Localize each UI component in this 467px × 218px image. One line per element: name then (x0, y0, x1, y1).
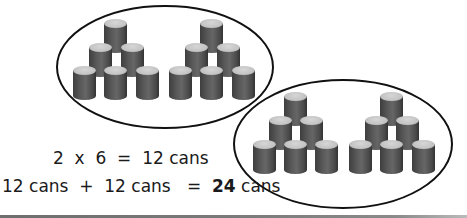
bottom-divider (0, 215, 467, 218)
can-icon (169, 66, 192, 100)
can-icon (253, 140, 276, 174)
equation-line-2-prefix: 12 cans + 12 cans = (2, 176, 212, 196)
can-icon (380, 140, 403, 174)
can-icon (73, 66, 96, 100)
can-icon (349, 140, 372, 174)
equation-line-1: 2 x 6 = 12 cans (53, 148, 209, 168)
can-icon (232, 66, 255, 100)
can-icon (200, 66, 223, 100)
can-icon (315, 140, 338, 174)
multiplication-diagram: 2 x 6 = 12 cans 12 cans + 12 cans = 24 c… (0, 0, 467, 218)
can-icon (284, 140, 307, 174)
can-icon (136, 66, 159, 100)
equation-line-2-suffix: cans (236, 176, 281, 196)
can-icon (412, 140, 435, 174)
equation-addition: 12 cans + 12 cans = 24 cans (2, 177, 280, 195)
equation-multiplication: 2 x 6 = 12 cans (53, 149, 209, 167)
can-icon (104, 66, 127, 100)
equation-result: 24 (212, 176, 236, 196)
